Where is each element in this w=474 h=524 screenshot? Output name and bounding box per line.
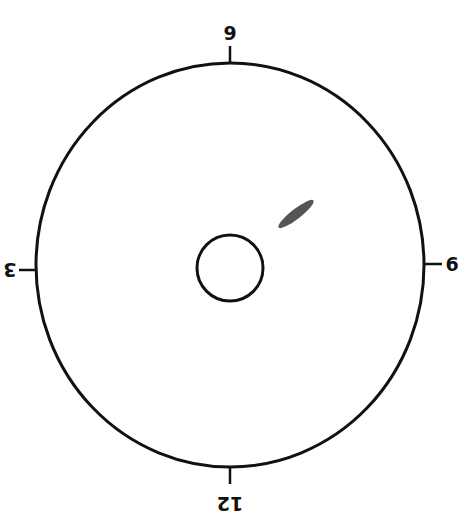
label-left: 3 — [3, 259, 16, 281]
outer-circle — [36, 63, 424, 467]
lesion-marker — [276, 197, 317, 232]
inner-circle — [197, 235, 263, 301]
label-bottom: 12 — [217, 493, 243, 515]
label-right: 6 — [445, 253, 458, 275]
clock-dial-diagram: 9 12 3 6 — [0, 0, 474, 524]
label-top: 9 — [223, 22, 236, 44]
